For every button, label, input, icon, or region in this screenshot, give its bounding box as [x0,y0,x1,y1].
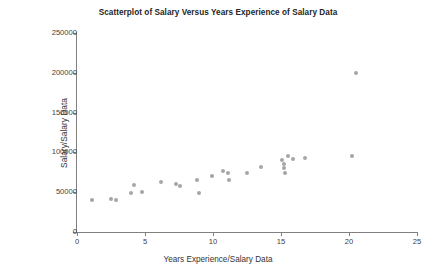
scatter-chart: Scatterplot of Salary Versus Years Exper… [0,0,436,277]
data-point [286,154,290,158]
x-tick-label: 20 [334,237,364,246]
data-point [350,154,354,158]
x-tick-mark [77,232,78,236]
data-point [90,198,94,202]
x-tick-label: 5 [130,237,160,246]
chart-title: Scatterplot of Salary Versus Years Exper… [0,8,436,17]
data-point [132,183,136,187]
x-tick-mark [213,232,214,236]
data-point [354,71,358,75]
data-point [283,171,287,175]
x-tick-mark [145,232,146,236]
data-point [227,178,231,182]
x-tick-label: 0 [62,237,92,246]
y-tick-label: 250000 [17,28,77,37]
y-tick-label: 50000 [17,187,77,196]
y-tick-label: 100000 [17,147,77,156]
data-point [282,166,286,170]
x-tick-label: 25 [402,237,432,246]
x-axis-label: Years Experience/Salary Data [0,255,436,264]
plot-area: Salary/Salary Data 050000100000150000200… [77,33,417,232]
data-point [178,184,182,188]
x-tick-label: 15 [266,237,296,246]
data-point [245,171,249,175]
y-tick-label: 200000 [17,68,77,77]
x-tick-mark [417,232,418,236]
data-point [195,178,199,182]
data-point [226,171,230,175]
x-axis-line [76,232,418,233]
x-tick-label: 10 [198,237,228,246]
x-tick-mark [281,232,282,236]
data-point [291,157,295,161]
data-point [159,180,163,184]
data-point [197,191,201,195]
data-point [140,190,144,194]
x-tick-mark [349,232,350,236]
data-point [259,165,263,169]
data-point [221,169,225,173]
data-point [109,197,113,201]
data-point [129,191,133,195]
data-point [303,156,307,160]
data-point [210,174,214,178]
data-point [114,198,118,202]
y-tick-label: 150000 [17,108,77,117]
y-tick-label: 0 [17,227,77,236]
